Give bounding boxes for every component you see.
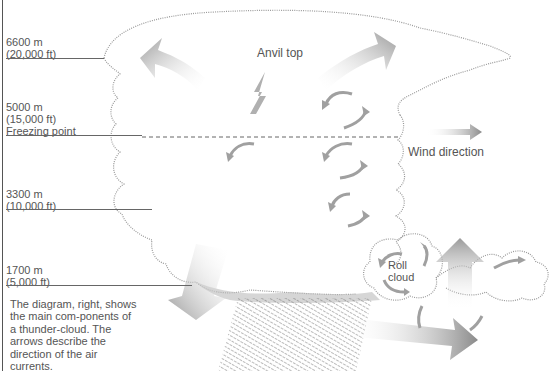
diagram-caption: The diagram, right, shows the main com-p…: [10, 298, 140, 371]
altitude-5000-label: 5000 m(15,000 ft)Freezing point: [6, 101, 76, 137]
altitude-imperial: (5,000 ft): [6, 276, 50, 288]
altitude-metric: 3300 m: [6, 188, 43, 200]
altitude-metric: 5000 m: [6, 101, 43, 113]
altitude-5000-rule: [6, 135, 142, 136]
altitude-metric: 6600 m: [6, 36, 43, 48]
anvil-arrow-right-icon: [318, 32, 396, 90]
small-arrowheads: [226, 100, 526, 296]
altitude-imperial: (10,000 ft): [6, 200, 56, 212]
wind-direction-arrow-icon: [426, 124, 482, 140]
altitude-3300-rule: [6, 209, 152, 210]
altitude-1700-rule: [6, 285, 192, 286]
downdraft-arrow-icon: [168, 244, 228, 320]
altitude-6600-label: 6600 m(20,000 ft): [6, 36, 56, 60]
altitude-imperial: (15,000 ft): [6, 113, 56, 125]
roll-cloud-label: Roll cloud: [388, 259, 414, 283]
lightning-bolt-icon: [250, 72, 266, 114]
updraft-arrow-icon: [436, 238, 484, 310]
altitude-metric: 1700 m: [6, 264, 43, 276]
wind-direction-label: Wind direction: [408, 145, 484, 159]
anvil-top-label: Anvil top: [257, 46, 303, 60]
altitude-6600-rule: [6, 58, 104, 59]
outflow-arrow-icon: [346, 318, 478, 360]
anvil-arrow-left-icon: [140, 38, 205, 90]
